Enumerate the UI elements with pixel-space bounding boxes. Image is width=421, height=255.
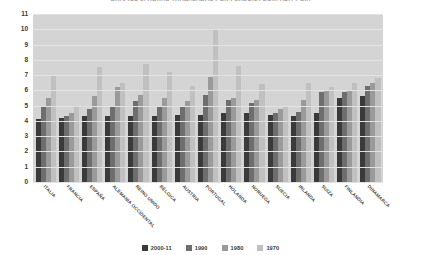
chart-legend: 2000-11199019801970 xyxy=(0,245,421,251)
y-axis-tick: 9 xyxy=(24,41,28,48)
bar-group xyxy=(359,14,382,182)
y-axis-tick: 6 xyxy=(24,87,28,94)
gridline xyxy=(33,60,383,61)
y-axis-tick: 4 xyxy=(24,118,28,125)
bar xyxy=(143,64,148,182)
x-axis-label-cell: AUSTRIA xyxy=(173,182,196,234)
legend-label: 1990 xyxy=(195,245,208,251)
legend-swatch xyxy=(186,245,192,251)
y-axis-tick: 0 xyxy=(24,179,28,186)
legend-item[interactable]: 1970 xyxy=(257,245,279,251)
x-axis-label-cell: HOLANDA xyxy=(220,182,243,234)
bar-group xyxy=(220,14,243,182)
bar xyxy=(329,87,334,182)
gridline xyxy=(33,167,383,168)
x-axis-label: SUIZA xyxy=(320,184,334,198)
plot-area xyxy=(33,14,383,182)
bar-group xyxy=(104,14,127,182)
bar-group xyxy=(266,14,289,182)
y-axis-tick: 11 xyxy=(21,11,28,18)
bar-group xyxy=(150,14,173,182)
bar-group xyxy=(289,14,312,182)
x-axis-label-cell: PORTUGAL xyxy=(196,182,219,234)
gridline xyxy=(33,75,383,76)
chart-container: GRÁFICO 2. HORAS TRABAJADAS POR PERSONA … xyxy=(0,0,421,255)
legend-item[interactable]: 2000-11 xyxy=(142,245,172,251)
bar-group xyxy=(336,14,359,182)
x-axis-label-cell: DINAMARCA xyxy=(359,182,382,234)
x-axis-label-cell: ALEMANIA OCCIDENTAL xyxy=(104,182,127,234)
y-axis-tick: 8 xyxy=(24,57,28,64)
bar xyxy=(236,66,241,182)
legend-label: 1980 xyxy=(231,245,244,251)
bar xyxy=(283,106,288,182)
bar-group xyxy=(57,14,80,182)
bar-group xyxy=(80,14,103,182)
chart-title: GRÁFICO 2. HORAS TRABAJADAS POR PERSONA … xyxy=(0,0,421,3)
x-axis-label-cell: NORUEGA xyxy=(243,182,266,234)
y-axis-tick: 3 xyxy=(24,133,28,140)
x-axis-label-cell: SUECIA xyxy=(266,182,289,234)
legend-item[interactable]: 1980 xyxy=(222,245,244,251)
x-axis-label-cell: BÉLGICA xyxy=(150,182,173,234)
bar-group xyxy=(127,14,150,182)
legend-label: 1970 xyxy=(266,245,279,251)
y-axis-tick: 7 xyxy=(24,72,28,79)
y-axis-tick: 10 xyxy=(21,26,28,33)
x-axis-labels: ITALIAFRANCIAESPAÑAALEMANIA OCCIDENTALRE… xyxy=(33,182,383,234)
y-axis-tick: 2 xyxy=(24,148,28,155)
gridline xyxy=(33,106,383,107)
bar-groups xyxy=(33,14,383,182)
bar-group xyxy=(196,14,219,182)
legend-swatch xyxy=(142,245,148,251)
bar xyxy=(97,67,102,182)
x-axis-label-cell: SUIZA xyxy=(312,182,335,234)
y-axis: 01234567891011 xyxy=(0,14,31,182)
gridline xyxy=(33,45,383,46)
x-axis-label-cell: ESPAÑA xyxy=(80,182,103,234)
bar xyxy=(167,72,172,182)
bar-group xyxy=(173,14,196,182)
bar xyxy=(74,106,79,182)
bar-group xyxy=(34,14,57,182)
gridline xyxy=(33,14,383,15)
legend-label: 2000-11 xyxy=(151,245,172,251)
bar-group xyxy=(312,14,335,182)
x-axis-label-cell: ITALIA xyxy=(34,182,57,234)
gridline xyxy=(33,121,383,122)
x-axis-label-cell: FINLANDIA xyxy=(336,182,359,234)
x-axis-label: ITALIA xyxy=(42,184,56,198)
x-axis-label-cell: REINO UNIDO xyxy=(127,182,150,234)
x-axis-label: SUECIA xyxy=(274,184,290,200)
legend-item[interactable]: 1990 xyxy=(186,245,208,251)
x-axis-label-cell: FRANCIA xyxy=(57,182,80,234)
gridline xyxy=(33,90,383,91)
x-axis-label: DINAMARCA xyxy=(367,184,392,209)
gridline xyxy=(33,29,383,30)
bar-group xyxy=(243,14,266,182)
x-axis-label-cell: IRLANDA xyxy=(289,182,312,234)
gridline xyxy=(33,136,383,137)
gridline xyxy=(33,151,383,152)
legend-swatch xyxy=(222,245,228,251)
y-axis-tick: 5 xyxy=(24,102,28,109)
y-axis-tick: 1 xyxy=(24,163,28,170)
legend-swatch xyxy=(257,245,263,251)
